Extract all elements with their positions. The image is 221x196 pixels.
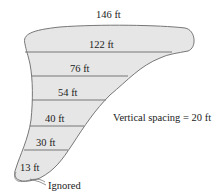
- label-13: 13 ft: [20, 162, 40, 173]
- label-40: 40 ft: [45, 113, 65, 124]
- label-122: 122 ft: [89, 39, 114, 50]
- label-30: 30 ft: [36, 137, 56, 148]
- label-76: 76 ft: [70, 63, 90, 74]
- ignored-leader: [30, 179, 46, 185]
- label-54: 54 ft: [58, 87, 78, 98]
- ignored-label: Ignored: [48, 180, 81, 191]
- spacing-note: Vertical spacing = 20 ft: [113, 112, 211, 123]
- region-diagram: 146 ft 122 ft 76 ft 54 ft 40 ft 30 ft 13…: [0, 0, 221, 196]
- label-146: 146 ft: [96, 9, 121, 20]
